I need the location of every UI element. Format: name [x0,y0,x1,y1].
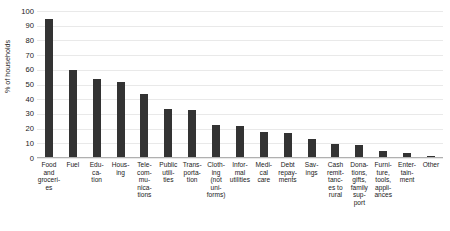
bar-slot [204,10,228,157]
bar[interactable] [45,19,53,157]
x-axis-label: Hous-ing [109,161,133,176]
x-axis-label: Edu-ca-tion [85,161,109,184]
x-axis-label: Cashremit-tanc-es torural [324,161,348,199]
bar-slot [419,10,443,157]
y-tick-label: 70 [2,52,34,59]
bar[interactable] [93,79,101,157]
gridline [37,158,443,159]
bar[interactable] [212,125,220,157]
y-tick-label: 60 [2,66,34,73]
bar-slot [37,10,61,157]
bar-series [37,10,443,157]
y-tick-label: 10 [2,140,34,147]
bar-slot [395,10,419,157]
x-axis-label: Cloth-ing(notuni-forms) [204,161,228,199]
bar[interactable] [260,132,268,157]
y-tick-label: 40 [2,96,34,103]
bar-slot [300,10,324,157]
bar-slot [85,10,109,157]
bar[interactable] [69,70,77,157]
x-axis-label: Tele-com-mu-nica-tions [133,161,157,199]
y-tick-label: 100 [2,8,34,15]
bar[interactable] [331,144,339,157]
x-axis-label: Sav-ings [300,161,324,176]
x-axis-label: Foodandgroceri-es [37,161,61,191]
x-axis-line [37,157,443,158]
bar[interactable] [308,139,316,157]
y-tick-label: 90 [2,22,34,29]
bar[interactable] [117,82,125,157]
bar[interactable] [164,109,172,158]
x-axis-label: Publicutili-ties [156,161,180,184]
bar-slot [347,10,371,157]
y-tick-label: 0 [2,155,34,162]
bar-slot [180,10,204,157]
x-axis-label: Infor-malutilities [228,161,252,184]
x-axis-label: Debtrepay-ments [276,161,300,184]
x-axis-label: Dona-tions,gifts,familysup-port [347,161,371,207]
y-tick-label: 20 [2,125,34,132]
x-axis-label: Fuel [61,161,85,169]
x-axis-label: Medi-calcare [252,161,276,184]
x-axis-label: Furni-ture,tools,appli-ances [371,161,395,199]
x-axis-labels: Foodandgroceri-esFuelEdu-ca-tionHous-ing… [37,161,443,231]
bar[interactable] [284,133,292,157]
bar-slot [252,10,276,157]
y-tick-label: 80 [2,37,34,44]
x-axis-label: Trans-porta-tion [180,161,204,184]
bar-slot [133,10,157,157]
y-tick-label: 30 [2,110,34,117]
bar-slot [109,10,133,157]
x-axis-label: Other [419,161,443,169]
plot-area [37,11,443,158]
bar-slot [61,10,85,157]
bar-chart: Expenditure types paid by households % o… [0,0,450,231]
bar[interactable] [236,126,244,157]
bar-slot [371,10,395,157]
bar-slot [276,10,300,157]
x-axis-label: Enter-tain-ment [395,161,419,184]
bar[interactable] [188,110,196,157]
bar-slot [324,10,348,157]
bar[interactable] [355,145,363,157]
y-axis-ticks: 1009080706050403020100 [0,11,34,158]
bar[interactable] [140,94,148,157]
bar-slot [228,10,252,157]
bar-slot [156,10,180,157]
y-tick-label: 50 [2,81,34,88]
